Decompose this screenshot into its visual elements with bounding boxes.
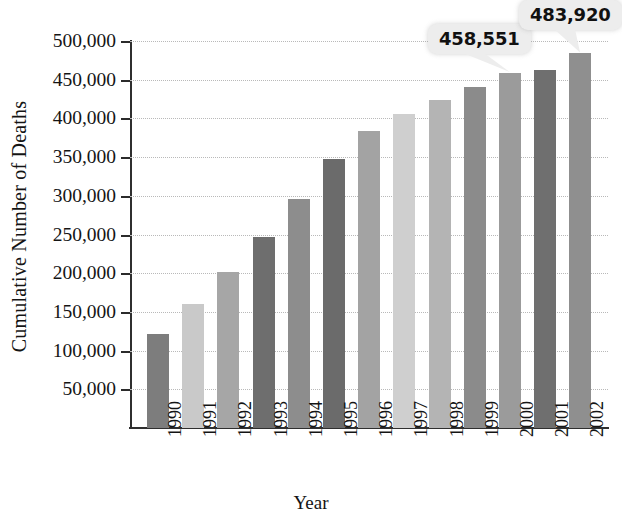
bar[interactable]: [499, 73, 521, 428]
y-axis-tick-label: 100,000: [8, 341, 116, 361]
x-axis-tick-label: 2001: [553, 401, 571, 437]
y-axis-tick: [121, 389, 130, 391]
bar[interactable]: [358, 131, 380, 428]
y-axis-tick: [121, 157, 130, 159]
y-axis-tick-label: 50,000: [8, 379, 116, 399]
x-axis-tick-label: 1990: [166, 401, 184, 437]
y-axis-tick: [121, 312, 130, 314]
y-axis-tick: [121, 351, 130, 353]
y-axis-tick: [121, 118, 130, 120]
y-axis-tick-label: 400,000: [8, 108, 116, 128]
y-axis-tick-label: 250,000: [8, 225, 116, 245]
x-axis-tick-label: 1991: [201, 401, 219, 437]
bar[interactable]: [429, 100, 451, 428]
bar[interactable]: [288, 199, 310, 428]
bar[interactable]: [253, 237, 275, 428]
y-axis-tick-label: 200,000: [8, 263, 116, 283]
y-axis-tick: [121, 196, 130, 198]
x-axis-tick-label: 1999: [483, 401, 501, 437]
y-axis-tick: [121, 41, 130, 43]
bar[interactable]: [464, 87, 486, 428]
y-axis-tick-label: 300,000: [8, 186, 116, 206]
bar[interactable]: [393, 114, 415, 428]
gridline: [130, 41, 608, 42]
x-axis-title: Year: [0, 492, 622, 514]
bar[interactable]: [569, 53, 591, 428]
y-axis-tick-label: 150,000: [8, 302, 116, 322]
bar[interactable]: [534, 70, 556, 428]
y-axis-tick: [121, 235, 130, 237]
x-axis-tick-label: 1996: [377, 401, 395, 437]
x-axis-tick-label: 1992: [236, 401, 254, 437]
y-axis-tick: [121, 273, 130, 275]
y-axis-tick-label: 450,000: [8, 70, 116, 90]
x-axis-tick-label: 1997: [412, 401, 430, 437]
callout-pointer: [547, 26, 588, 60]
bar-chart: Cumulative Number of Deaths 500,000450,0…: [0, 0, 622, 518]
y-axis-tick: [121, 80, 130, 82]
callout-pointer: [456, 50, 518, 80]
x-axis-tick-label: 2000: [518, 401, 536, 437]
x-axis-tick-label: 1994: [307, 401, 325, 437]
bar[interactable]: [323, 159, 345, 428]
x-axis-tick-label: 1995: [342, 401, 360, 437]
y-axis-tick-label: 350,000: [8, 147, 116, 167]
y-axis-tick-label: 500,000: [8, 31, 116, 51]
x-axis-tick-label: 2002: [588, 401, 606, 437]
x-axis-tick-label: 1998: [448, 401, 466, 437]
plot-area: [130, 41, 608, 428]
x-axis-tick-label: 1993: [272, 401, 290, 437]
